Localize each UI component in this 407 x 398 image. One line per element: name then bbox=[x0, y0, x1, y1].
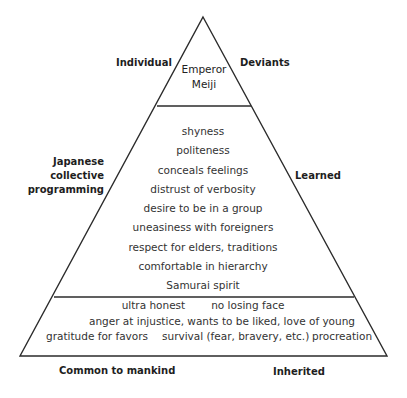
trait-item: ultra honest bbox=[122, 296, 186, 315]
trait-item: desire to be in a group bbox=[122, 199, 285, 218]
label-learned: Learned bbox=[295, 169, 341, 183]
trait-item-pair: ultra honestno losing face bbox=[122, 296, 285, 315]
label-line: programming bbox=[22, 183, 104, 197]
label-inherited: Inherited bbox=[273, 365, 325, 379]
pyramid-diagram: Emperor Meiji shyness politeness conceal… bbox=[0, 0, 407, 398]
apex-line-1: Emperor bbox=[182, 62, 227, 77]
trait-item: respect for elders, traditions bbox=[122, 238, 285, 257]
common-traits-row-1: anger at injustice, wants to be liked, l… bbox=[89, 314, 355, 328]
label-common-to-mankind: Common to mankind bbox=[59, 364, 175, 378]
label-deviants: Deviants bbox=[240, 56, 290, 70]
label-line: Japanese bbox=[22, 155, 104, 169]
common-trait-survival: survival (fear, bravery, etc.) bbox=[162, 329, 309, 343]
apex-line-2: Meiji bbox=[182, 77, 227, 92]
common-trait-procreation: procreation bbox=[312, 329, 372, 343]
trait-item: comfortable in hierarchy bbox=[122, 257, 285, 276]
trait-item: conceals feelings bbox=[122, 161, 285, 180]
trait-item: distrust of verbosity bbox=[122, 180, 285, 199]
trait-item: shyness bbox=[122, 122, 285, 141]
trait-item: no losing face bbox=[211, 296, 284, 315]
apex-content: Emperor Meiji bbox=[182, 62, 227, 92]
label-line: collective bbox=[22, 169, 104, 183]
label-individual: Individual bbox=[116, 56, 172, 70]
label-japanese-collective-programming: Japanese collective programming bbox=[22, 155, 104, 197]
trait-item: Samurai spirit bbox=[122, 276, 285, 295]
collective-traits-list: shyness politeness conceals feelings dis… bbox=[122, 122, 285, 315]
common-trait-gratitude: gratitude for favors bbox=[46, 329, 148, 343]
trait-item: uneasiness with foreigners bbox=[122, 218, 285, 237]
trait-item: politeness bbox=[122, 141, 285, 160]
